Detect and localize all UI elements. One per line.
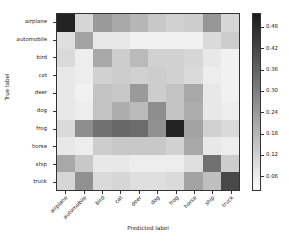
colorbar-tick-mark — [261, 70, 264, 71]
heatmap-cell — [203, 84, 221, 102]
heatmap-cell — [75, 84, 93, 102]
heatmap-cell — [112, 102, 130, 120]
heatmap-cell — [203, 14, 221, 32]
x-tick-truck: truck — [222, 195, 240, 221]
heatmap-cell — [166, 172, 184, 190]
heatmap-cell — [166, 32, 184, 50]
confusion-matrix-figure: True label airplaneautomobilebirdcatdeer… — [0, 0, 289, 241]
heatmap-cell — [184, 14, 202, 32]
heatmap-cell — [130, 32, 148, 50]
heatmap-cell — [112, 49, 130, 67]
heatmap-cell — [148, 67, 166, 85]
colorbar-tick-mark — [261, 176, 264, 177]
heatmap-cell — [166, 155, 184, 173]
heatmap-cell — [93, 102, 111, 120]
heatmap-cell — [203, 32, 221, 50]
colorbar-tick-mark — [261, 91, 264, 92]
colorbar-tick-mark — [261, 155, 264, 156]
heatmap-cell — [148, 120, 166, 138]
heatmap-cell — [112, 67, 130, 85]
y-tick-ship: ship — [0, 155, 52, 173]
x-tick-deer: deer — [130, 195, 148, 221]
heatmap-cell — [57, 49, 75, 67]
heatmap-cell — [148, 102, 166, 120]
x-tick-cat: cat — [111, 195, 129, 221]
heatmap-cell — [130, 67, 148, 85]
y-tick-airplane: airplane — [0, 13, 52, 31]
heatmap-cell — [184, 32, 202, 50]
colorbar-tick-mark — [261, 112, 264, 113]
heatmap-cell — [93, 84, 111, 102]
y-axis-tick-labels: airplaneautomobilebirdcatdeerdogfroghors… — [0, 13, 52, 191]
heatmap-cell — [75, 67, 93, 85]
x-axis-label: Predicted label — [96, 225, 200, 231]
heatmap-cell — [93, 137, 111, 155]
heatmap-cell — [184, 102, 202, 120]
heatmap-cell — [130, 155, 148, 173]
heatmap-cell — [221, 32, 239, 50]
heatmap-cells — [57, 14, 239, 190]
heatmap-cell — [57, 84, 75, 102]
heatmap-cell — [130, 137, 148, 155]
x-tick-horse: horse — [185, 195, 203, 221]
y-tick-dog: dog — [0, 102, 52, 120]
colorbar-tick-text: 0.36 — [266, 67, 278, 72]
heatmap-cell — [112, 155, 130, 173]
heatmap-cell — [93, 32, 111, 50]
heatmap-cell — [130, 102, 148, 120]
heatmap-cell — [93, 155, 111, 173]
heatmap-cell — [112, 84, 130, 102]
heatmap-cell — [184, 49, 202, 67]
y-tick-truck: truck — [0, 173, 52, 191]
heatmap-cell — [221, 14, 239, 32]
heatmap-cell — [166, 102, 184, 120]
heatmap-cell — [112, 137, 130, 155]
x-tick-ship: ship — [203, 195, 221, 221]
x-tick-bird: bird — [93, 195, 111, 221]
x-tick-label: truck — [221, 195, 235, 209]
colorbar-tick-text: 0.48 — [266, 24, 278, 29]
heatmap-cell — [203, 120, 221, 138]
heatmap-cell — [184, 84, 202, 102]
x-axis-tick-labels: airplaneautomobilebirdcatdeerdogfroghors… — [56, 195, 240, 221]
heatmap-cell — [57, 172, 75, 190]
heatmap-cell — [57, 67, 75, 85]
heatmap-cell — [221, 137, 239, 155]
heatmap-cell — [221, 155, 239, 173]
heatmap-cell — [112, 120, 130, 138]
y-tick-deer: deer — [0, 84, 52, 102]
heatmap-cell — [75, 49, 93, 67]
heatmap-cell — [93, 120, 111, 138]
y-tick-bird: bird — [0, 49, 52, 67]
heatmap-cell — [148, 14, 166, 32]
heatmap-cell — [166, 49, 184, 67]
heatmap-cell — [93, 14, 111, 32]
heatmap-cell — [221, 102, 239, 120]
heatmap-cell — [112, 32, 130, 50]
colorbar-tick-mark — [261, 27, 264, 28]
heatmap-cell — [184, 137, 202, 155]
heatmap-cell — [57, 14, 75, 32]
y-tick-horse: horse — [0, 138, 52, 156]
heatmap-cell — [203, 67, 221, 85]
colorbar-tick-text: 0.24 — [266, 110, 278, 115]
heatmap-cell — [184, 120, 202, 138]
heatmap-cell — [112, 172, 130, 190]
x-tick-label: cat — [114, 195, 124, 205]
heatmap-cell — [221, 84, 239, 102]
heatmap-cell — [148, 137, 166, 155]
colorbar-tick-labels: 0.060.120.180.240.300.360.420.48 — [252, 13, 288, 191]
heatmap-cell — [57, 32, 75, 50]
x-tick-label: ship — [205, 195, 217, 207]
heatmap-cell — [221, 120, 239, 138]
heatmap-cell — [166, 84, 184, 102]
heatmap-cell — [148, 49, 166, 67]
heatmap-cell — [221, 49, 239, 67]
heatmap-cell — [75, 137, 93, 155]
x-tick-label: dog — [150, 195, 161, 206]
heatmap-cell — [203, 155, 221, 173]
heatmap-cell — [203, 137, 221, 155]
heatmap-cell — [148, 32, 166, 50]
heatmap-cell — [148, 172, 166, 190]
heatmap-cell — [166, 14, 184, 32]
